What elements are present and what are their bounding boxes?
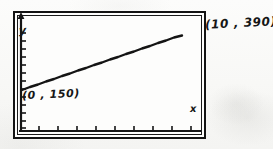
graph-screenshot: y x (0 , 150) (10 , 390) [0,0,273,149]
y-axis-label: y [19,24,27,37]
end-point-annotation: (10 , 390) [205,14,273,32]
y-axis-arrowhead-icon [18,12,25,19]
graph-drawing [13,11,206,139]
data-line-series [22,36,182,91]
start-point-annotation: (0 , 150) [22,87,80,103]
x-axis-label: x [190,103,197,114]
